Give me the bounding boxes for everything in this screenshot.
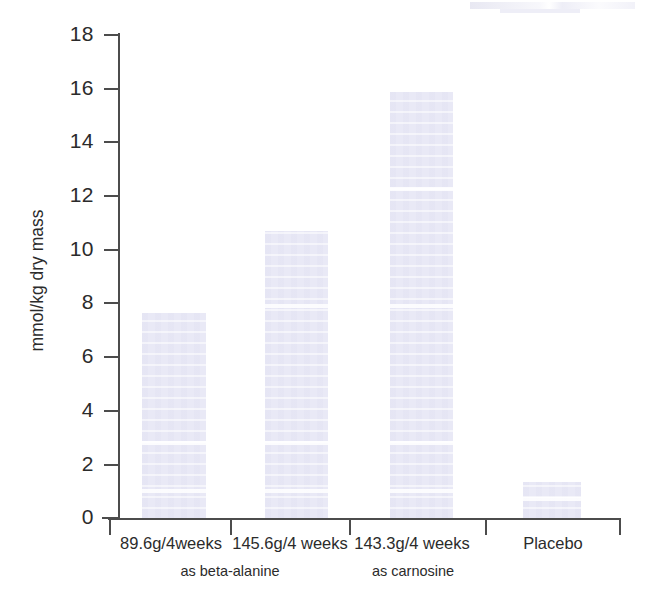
y-tick-label-10: 10 [50, 237, 94, 261]
x-axis-line [108, 518, 621, 520]
y-tick-label-8: 8 [50, 290, 94, 314]
bar-band [390, 304, 453, 308]
bar-chart: 18 16 14 12 10 8 6 4 2 0 mmol/kg dry mas… [0, 0, 649, 605]
bar-band [390, 187, 453, 191]
y-tick-2 [104, 464, 119, 466]
bar-band [523, 497, 581, 501]
scan-artifact-top-secondary [500, 9, 580, 13]
y-tick-label-14: 14 [50, 129, 94, 153]
x-category-label-3: Placebo [487, 534, 619, 553]
y-tick-label-6: 6 [50, 344, 94, 368]
bar-band [265, 304, 328, 308]
x-category-label-1: 145.6g/4 weeks [229, 534, 351, 553]
bar-band [265, 441, 328, 445]
y-tick-6 [104, 356, 119, 358]
bar-145-6g-4-weeks [265, 231, 328, 518]
y-tick-label-18: 18 [50, 22, 94, 46]
bar-band [265, 489, 328, 493]
y-tick-label-0: 0 [50, 505, 94, 529]
x-category-sublabel-0: as beta-alanine [110, 563, 350, 579]
x-category-label-0: 89.6g/4weeks [110, 534, 232, 553]
bar-band [390, 441, 453, 445]
y-tick-label-12: 12 [50, 183, 94, 207]
bar-placebo [523, 482, 581, 518]
y-axis-title: mmol/kg dry mass [27, 181, 48, 381]
y-tick-18 [104, 34, 119, 36]
scan-artifact-top [470, 2, 635, 9]
y-tick-8 [104, 302, 119, 304]
y-axis-line [118, 33, 120, 520]
y-tick-label-2: 2 [50, 452, 94, 476]
x-tick-2 [349, 519, 351, 535]
bar-143-3g-4-weeks [390, 92, 453, 518]
x-category-label-2: 143.3g/4 weeks [347, 534, 477, 553]
y-tick-16 [104, 88, 119, 90]
x-category-sublabel-2: as carnosine [347, 563, 479, 579]
x-tick-3 [485, 519, 487, 535]
bar-band [142, 489, 206, 493]
bar-89-6g-4weeks [142, 313, 206, 518]
y-tick-10 [104, 249, 119, 251]
bar-band [390, 489, 453, 493]
y-tick-label-16: 16 [50, 76, 94, 100]
x-tick-4 [619, 519, 621, 535]
bar-band [142, 441, 206, 445]
y-tick-4 [104, 410, 119, 412]
y-tick-14 [104, 141, 119, 143]
y-tick-label-4: 4 [50, 398, 94, 422]
x-tick-1 [230, 519, 232, 535]
x-tick-0 [109, 519, 111, 535]
y-tick-12 [104, 195, 119, 197]
